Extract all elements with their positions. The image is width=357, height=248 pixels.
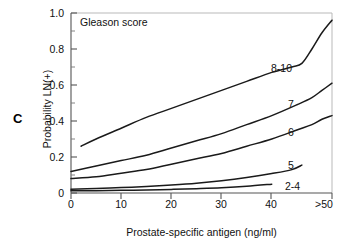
plot-svg xyxy=(0,0,357,248)
curve-8-10 xyxy=(81,20,332,146)
x-major-ticks xyxy=(71,193,332,199)
curve-5 xyxy=(71,165,302,189)
figure-panel-c: C Probability LN(+) Prostate-specific an… xyxy=(0,0,357,248)
y-minor-ticks xyxy=(71,31,75,175)
